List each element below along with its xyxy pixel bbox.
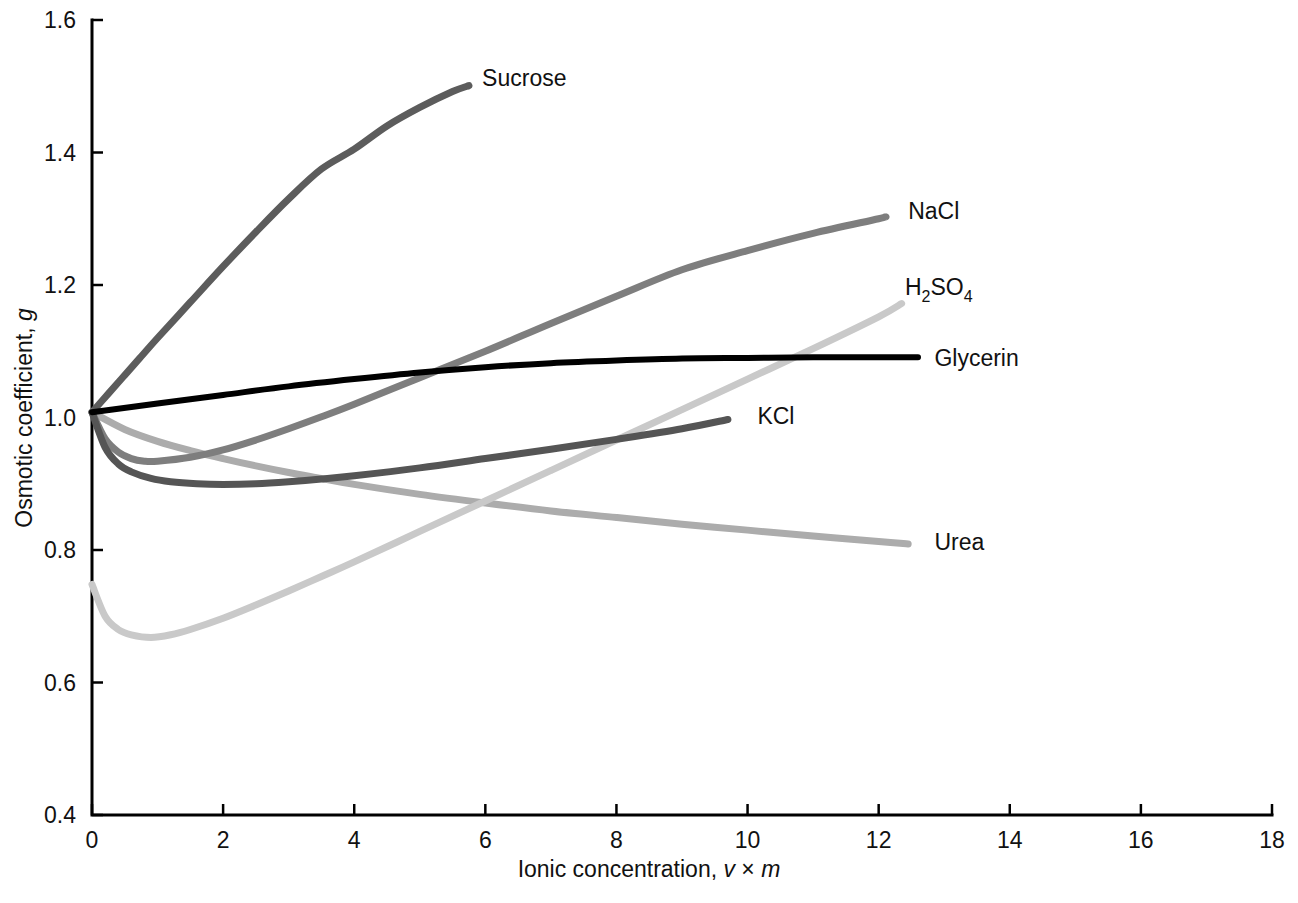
h2so4-so: SO xyxy=(930,274,963,300)
y-axis-title-g: g xyxy=(11,308,37,321)
series-label-sucrose: Sucrose xyxy=(482,65,566,91)
x-tick-label: 4 xyxy=(348,827,361,853)
series-label-kcl: KCl xyxy=(757,403,794,429)
x-tick-label: 18 xyxy=(1259,827,1285,853)
y-tick-label: 0.8 xyxy=(44,537,76,563)
x-tick-label: 10 xyxy=(735,827,761,853)
curve-sucrose xyxy=(92,86,469,413)
x-axis-tick-labels: 024681012141618 xyxy=(86,827,1285,853)
h2so4-sub-4: 4 xyxy=(964,288,973,305)
y-tick-label: 0.4 xyxy=(44,802,76,828)
series-label-nacl: NaCl xyxy=(908,198,959,224)
x-tick-label: 16 xyxy=(1128,827,1154,853)
y-axis-tick-labels: 0.40.60.81.01.21.41.6 xyxy=(44,7,76,828)
axis-frame xyxy=(92,20,1272,815)
y-tick-label: 1.0 xyxy=(44,405,76,431)
x-axis-title-prefix: Ionic concentration, xyxy=(518,856,724,882)
x-axis-title-times: × xyxy=(735,856,761,882)
x-tick-label: 12 xyxy=(866,827,892,853)
series-label-urea: Urea xyxy=(934,529,984,555)
series-label-h2so4: H2SO4 xyxy=(905,274,973,305)
x-axis-title: Ionic concentration, v × m xyxy=(518,856,781,882)
x-axis-ticks xyxy=(92,804,1272,815)
series-labels: Sucrose NaCl H2SO4 Glycerin KCl Urea xyxy=(482,65,1019,555)
y-tick-label: 1.2 xyxy=(44,272,76,298)
osmotic-coefficient-line-chart: 0.40.60.81.01.21.41.6 024681012141618 Su… xyxy=(0,0,1298,903)
x-tick-label: 2 xyxy=(217,827,230,853)
y-tick-label: 1.6 xyxy=(44,7,76,33)
x-tick-label: 8 xyxy=(610,827,623,853)
y-tick-label: 1.4 xyxy=(44,140,76,166)
h2so4-h: H xyxy=(905,274,922,300)
x-axis-title-m: m xyxy=(761,856,780,882)
x-tick-label: 14 xyxy=(997,827,1023,853)
y-tick-label: 0.6 xyxy=(44,670,76,696)
series-label-glycerin: Glycerin xyxy=(934,345,1018,371)
h2so4-sub-2: 2 xyxy=(922,288,931,305)
x-tick-label: 0 xyxy=(86,827,99,853)
chart-figure: 0.40.60.81.01.21.41.6 024681012141618 Su… xyxy=(0,0,1298,903)
data-curves xyxy=(92,86,918,638)
curve-urea xyxy=(92,412,908,544)
x-tick-label: 6 xyxy=(479,827,492,853)
y-axis-title-prefix: Osmotic coefficient, xyxy=(11,321,37,528)
curve-h2so4 xyxy=(92,304,902,638)
y-axis-title: Osmotic coefficient, g xyxy=(11,308,37,528)
